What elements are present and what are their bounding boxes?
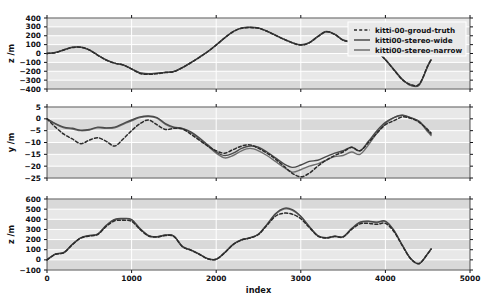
plot-band [47, 154, 470, 166]
y-tick-label: 0 [36, 114, 41, 123]
chart-panel-2: −25−20−15−10−505y /m [0, 100, 485, 186]
y-tick-label: −10 [25, 138, 41, 147]
x-tick-label: 4000 [375, 274, 396, 283]
plot-band [47, 131, 470, 143]
plot-band [47, 199, 470, 209]
y-tick-label: −25 [25, 174, 41, 183]
plot-band [47, 166, 470, 178]
plot-band [47, 209, 470, 219]
figure-root: −400−300−200−1000100200300400z /mkitti-0… [0, 0, 485, 302]
y-tick-label: −20 [25, 162, 41, 171]
y-tick-label: 400 [26, 14, 41, 23]
x-axis-label: index [246, 285, 272, 295]
y-tick-label: −100 [19, 58, 41, 67]
y-tick-label: −100 [19, 266, 41, 275]
y-tick-label: 0 [36, 49, 41, 58]
y-axis-label: z /m [6, 44, 16, 63]
plot-band [47, 260, 470, 270]
y-tick-label: 0 [36, 255, 41, 264]
plot-band [47, 71, 470, 80]
y-tick-label: 100 [26, 40, 41, 49]
legend-label-1: kitti-00-groud-truth [375, 26, 455, 35]
chart-panel-1: −400−300−200−1000100200300400z /mkitti-0… [0, 11, 485, 97]
y-tick-label: −5 [30, 126, 41, 135]
legend: kitti-00-groud-truthkitti00-stereo-widek… [348, 22, 466, 56]
x-tick-label: 2000 [206, 274, 227, 283]
plot-band [47, 240, 470, 250]
y-axis-label: z /m [6, 225, 16, 244]
y-tick-label: −200 [19, 67, 41, 76]
y-tick-label: −400 [19, 85, 41, 94]
y-tick-label: 200 [26, 235, 41, 244]
y-tick-label: 300 [26, 225, 41, 234]
legend-label-2: kitti00-stereo-wide [375, 36, 453, 45]
y-tick-label: 600 [26, 195, 41, 204]
y-tick-label: −300 [19, 76, 41, 85]
plot-band [47, 80, 470, 89]
x-tick-label: 0 [44, 274, 49, 283]
y-tick-label: 300 [26, 22, 41, 31]
y-tick-label: 500 [26, 205, 41, 214]
legend-label-3: kitti00-stereo-narrow [375, 46, 462, 55]
figure-title [60, 0, 400, 11]
y-tick-label: −15 [25, 150, 41, 159]
plot-band [47, 219, 470, 229]
x-tick-label: 1000 [121, 274, 142, 283]
x-tick-label: 5000 [460, 274, 481, 283]
y-tick-label: 5 [36, 103, 41, 112]
x-tick-label: 3000 [291, 274, 312, 283]
plot-band [47, 62, 470, 71]
y-tick-label: 100 [26, 245, 41, 254]
y-tick-label: 200 [26, 31, 41, 40]
y-tick-label: 400 [26, 215, 41, 224]
y-axis-label: y /m [6, 133, 16, 153]
chart-panel-3: −100010020030040050060001000200030004000… [0, 192, 485, 302]
